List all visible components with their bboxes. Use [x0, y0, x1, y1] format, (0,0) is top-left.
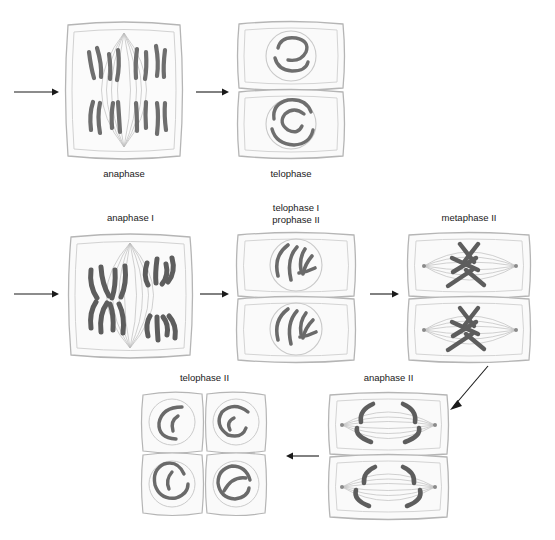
stage-anaphase-2[interactable]: anaphase II [325, 388, 452, 523]
stage-anaphase[interactable]: anaphase [61, 16, 187, 164]
stage-label-anaphase-2: anaphase II [325, 372, 452, 384]
stage-label-anaphase: anaphase [61, 168, 187, 180]
telophase-cell-drawing [234, 16, 348, 164]
arrow-anaphase-to-telophase [196, 86, 230, 98]
stage-label-anaphase-1: anaphase I [63, 212, 198, 224]
arrow-into-anaphase-1 [14, 288, 60, 300]
anaphase-2-cell-drawing [325, 388, 452, 523]
stage-label-telophase: telophase [234, 168, 348, 180]
arrow-anaphase2-to-telophase2 [285, 450, 319, 462]
metaphase-2-cell-drawing [404, 228, 534, 366]
diagram-canvas: anaphase telophase [0, 0, 555, 540]
stage-label-metaphase-2: metaphase II [404, 212, 534, 224]
telophase-1-prophase-2-cell-drawing [233, 228, 359, 366]
stage-label-telophase-2: telophase II [138, 372, 271, 384]
stage-telophase[interactable]: telophase [234, 16, 348, 164]
arrow-metaphase2-to-anaphase2 [446, 364, 490, 412]
anaphase-1-cell-drawing [63, 228, 198, 363]
stage-telophase-1-prophase-2[interactable]: telophase I prophase II [233, 228, 359, 366]
stage-metaphase-2[interactable]: metaphase II [404, 228, 534, 366]
anaphase-cell-drawing [61, 16, 187, 164]
arrow-into-anaphase [14, 86, 60, 98]
arrow-anaphase1-to-telophase1 [200, 288, 230, 300]
stage-label-telophase-1-prophase-2: telophase I prophase II [233, 202, 359, 225]
stage-telophase-2[interactable]: telophase II [138, 388, 271, 521]
stage-anaphase-1[interactable]: anaphase I [63, 228, 198, 363]
arrow-telophase1-to-metaphase2 [370, 288, 400, 300]
telophase-2-cell-drawing [138, 388, 271, 521]
